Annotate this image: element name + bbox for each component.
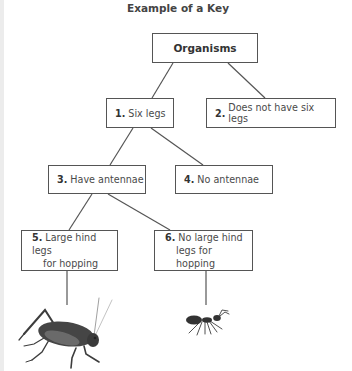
edge-n3-n5	[69, 194, 92, 230]
node-1-six-legs: 1. Six legs	[106, 98, 174, 128]
edge-root-n1	[152, 63, 173, 98]
node-text: No antennae	[197, 174, 259, 185]
node-5-large-hind-legs: 5.Large hind legs for hopping	[21, 230, 118, 271]
node-text: Have antennae	[70, 174, 143, 185]
node-text-line1: No large hind	[178, 232, 242, 243]
node-number: 4.	[184, 174, 194, 185]
node-3-have-antennae: 3. Have antennae	[48, 165, 146, 194]
node-6-no-large-hind-legs: 6.No large hind legs for hopping	[154, 230, 253, 271]
node-number: 2.	[215, 108, 225, 119]
node-number: 3.	[57, 174, 67, 185]
node-text: Does not have six legs	[228, 102, 335, 124]
node-text-line2: legs for hopping	[165, 244, 252, 270]
edge-n1-n3	[110, 128, 133, 165]
node-2-not-six-legs: 2. Does not have six legs	[206, 98, 336, 128]
node-number: 6.	[165, 232, 175, 243]
ant-icon	[183, 307, 233, 337]
edge-n3-n6	[108, 194, 170, 230]
node-text-line2: for hopping	[32, 257, 117, 270]
edge-root-n2	[228, 63, 265, 98]
node-4-no-antennae: 4. No antennae	[175, 165, 273, 194]
node-text: Six legs	[128, 108, 165, 119]
grasshopper-icon	[14, 296, 119, 371]
node-number: 1.	[115, 108, 125, 119]
node-label: Organisms	[173, 42, 236, 54]
node-number: 5.	[32, 232, 42, 243]
edge-n1-n4	[151, 128, 203, 165]
node-organisms: Organisms	[152, 33, 258, 63]
